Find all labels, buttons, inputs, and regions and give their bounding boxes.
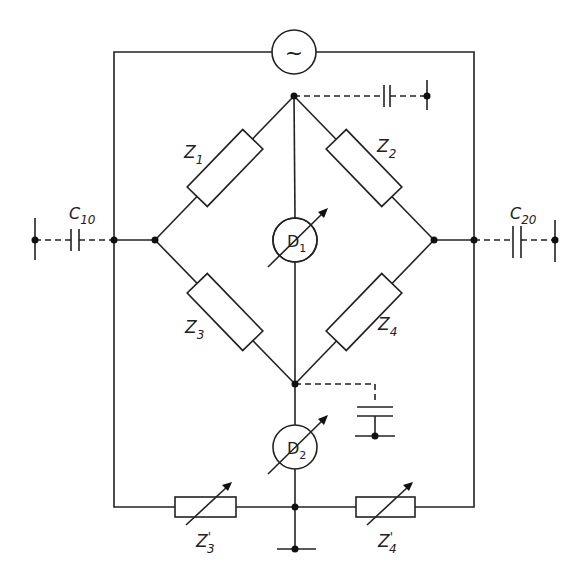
label-z3-prime: Z'3: [195, 530, 215, 556]
stray-capacitor-c20: [474, 220, 559, 262]
variable-impedance-z4-prime: [356, 482, 415, 525]
ac-source-symbol: ~: [285, 40, 303, 65]
label-z4: Z4: [377, 314, 397, 339]
label-z1: Z1: [183, 142, 203, 167]
impedance-z1: [187, 130, 263, 207]
ground-bottom: [277, 546, 316, 553]
label-z4-prime: Z'4: [377, 530, 397, 556]
label-z2: Z2: [376, 136, 396, 161]
variable-impedance-z3-prime: [175, 482, 236, 525]
label-c20: C20: [510, 204, 537, 227]
label-z3: Z3: [184, 317, 204, 342]
ac-source: ~: [272, 30, 316, 74]
stray-capacitor-top: [294, 80, 431, 110]
label-c10: C10: [69, 204, 96, 227]
circuit-svg: ~: [0, 0, 580, 580]
bridge-circuit-diagram: ~: [0, 0, 580, 580]
impedance-z2: [326, 130, 402, 207]
stray-capacitor-c10: [32, 218, 115, 260]
